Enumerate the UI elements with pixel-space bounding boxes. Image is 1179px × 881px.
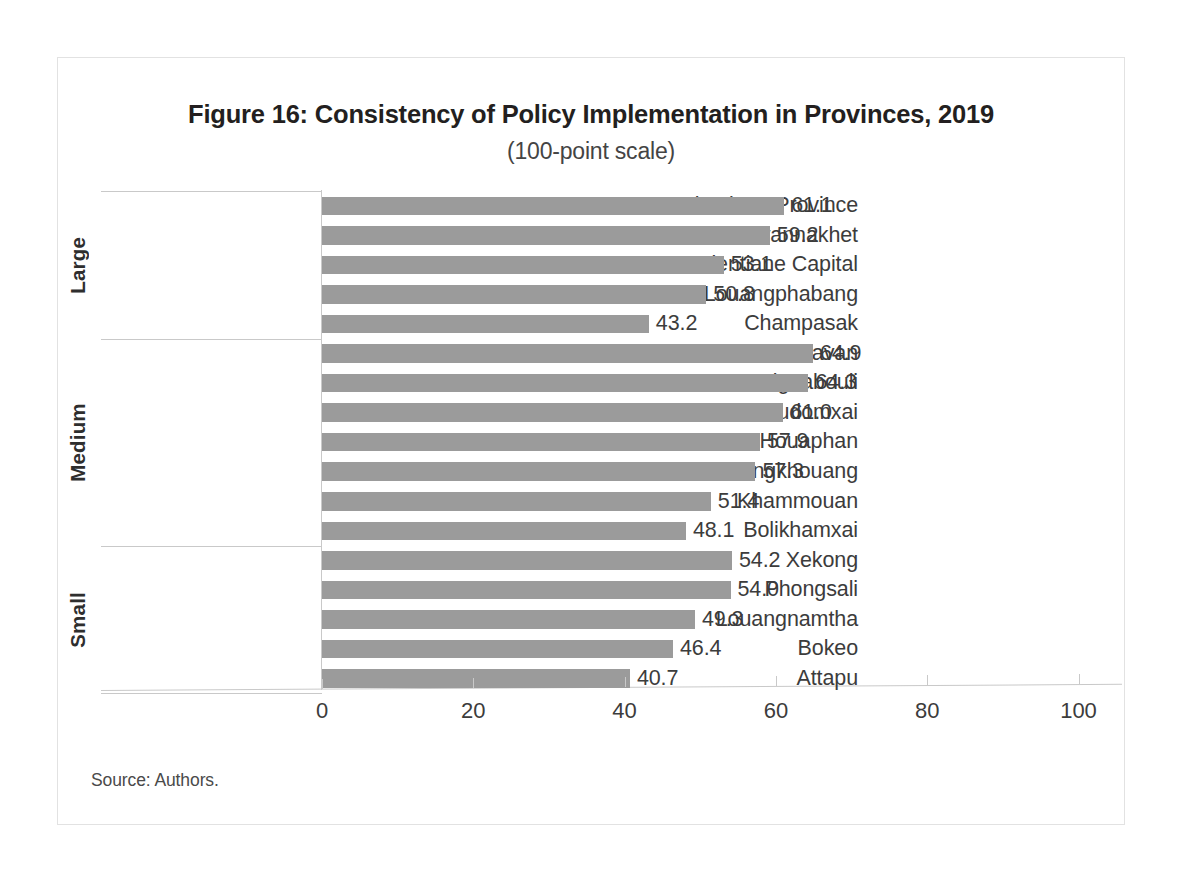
bar-value-label: 57.3 [762,457,803,487]
bar [322,256,724,275]
bar-value-label: 50.8 [713,280,754,310]
source-note: Source: Authors. [91,770,219,791]
bar-category-label: Attapu [796,664,858,694]
x-axis-tick [473,678,474,688]
x-axis-tick-label: 20 [461,698,485,724]
bar-value-label: 53.1 [731,250,772,280]
group-separator [101,339,322,340]
group-separator [101,693,322,694]
bar [322,315,649,334]
group-separator [101,191,322,192]
x-axis-tick-label: 40 [612,698,636,724]
x-axis-tick-label: 60 [764,698,788,724]
x-axis-tick [322,679,323,689]
bar-value-label: 46.4 [680,634,721,664]
bar-value-label: 54.2 [739,546,780,576]
bar-value-label: 43.2 [656,309,697,339]
table-row: Salavan64.9 [58,339,1126,369]
table-row: Bolikhamxai48.1 [58,516,1126,546]
table-row: Oudomxai61.0 [58,398,1126,428]
bar-value-label: 54.0 [738,575,779,605]
x-axis-tick-label: 100 [1060,698,1097,724]
table-row: Attapu40.7 [58,664,1126,694]
table-row: Louangphabang50.8 [58,280,1126,310]
bar [322,492,711,511]
bar [322,344,813,363]
bar-value-label: 57.9 [767,427,808,457]
bar-value-label: 40.7 [637,664,678,694]
table-row: Phongsali54.0 [58,575,1126,605]
bar-category-label: Bolikhamxai [743,516,858,546]
bar-category-label: Xekong [786,546,858,576]
bar [322,433,760,452]
bar-category-label: Champasak [744,309,858,339]
bar-value-label: 61.0 [790,398,831,428]
group-label-small: Small [58,546,98,694]
bar [322,226,770,245]
bar-value-label: 64.9 [820,339,861,369]
table-row: Khammouan51.4 [58,487,1126,517]
bar [322,403,783,422]
bar-value-label: 59.2 [777,221,818,251]
table-row: Champasak43.2 [58,309,1126,339]
bar [322,374,808,393]
bar-value-label: 61.1 [791,191,832,221]
bar-value-label: 49.3 [702,605,743,635]
group-label-large: Large [58,191,98,339]
plot-area: Vientiane Province61.1Savannakhet59.2Vie… [58,58,1126,826]
figure-frame: Figure 16: Consistency of Policy Impleme… [57,57,1125,825]
bar-value-label: 64.3 [815,368,856,398]
bar [322,285,706,304]
x-axis-tick [776,676,777,686]
table-row: Xekong54.2 [58,546,1126,576]
bar-category-label: Bokeo [798,634,858,664]
x-axis-tick [625,677,626,687]
bar [322,640,673,659]
bar [322,610,695,629]
bar-value-label: 48.1 [693,516,734,546]
group-separator [101,546,322,547]
table-row: Bokeo46.4 [58,634,1126,664]
table-row: Xaignabouli64.3 [58,368,1126,398]
bar [322,197,784,216]
bar [322,551,732,570]
table-row: Xiangkhouang57.3 [58,457,1126,487]
x-axis-tick-label: 0 [316,698,328,724]
bar [322,669,630,688]
bar [322,462,755,481]
table-row: Vientiane Province61.1 [58,191,1126,221]
group-label-medium: Medium [58,339,98,546]
table-row: Louangnamtha49.3 [58,605,1126,635]
bar [322,581,731,600]
bar-value-label: 51.4 [718,487,759,517]
table-row: Savannakhet59.2 [58,221,1126,251]
x-axis-tick [927,675,928,685]
x-axis-tick-label: 80 [915,698,939,724]
table-row: Houaphan57.9 [58,427,1126,457]
x-axis-tick [1079,674,1080,684]
table-row: Vientiane Capital53.1 [58,250,1126,280]
bar [322,522,686,541]
